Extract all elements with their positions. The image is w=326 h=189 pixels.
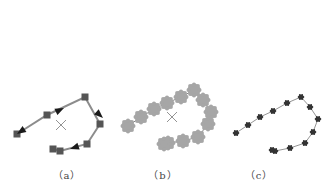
blob-marker-icon bbox=[204, 105, 219, 120]
square-marker-icon bbox=[50, 146, 57, 153]
square-marker-icon bbox=[82, 94, 89, 101]
dot-marker-icon bbox=[257, 114, 264, 120]
square-marker-icon bbox=[84, 141, 91, 148]
panel-b-gray-blobs bbox=[121, 83, 219, 152]
blob-marker-icon bbox=[121, 119, 136, 134]
arrow-head-icon bbox=[54, 108, 64, 115]
figure-canvas bbox=[0, 0, 326, 189]
panel-b-caption: （b） bbox=[148, 167, 177, 182]
dot-marker-icon bbox=[245, 122, 252, 128]
blob-marker-icon bbox=[147, 102, 162, 117]
panel-c-dark-dots bbox=[233, 94, 322, 154]
dot-marker-icon bbox=[315, 116, 322, 122]
dot-marker-icon bbox=[270, 108, 277, 114]
blob-marker-icon bbox=[196, 93, 211, 108]
dot-marker-icon bbox=[302, 140, 309, 146]
blob-marker-icon bbox=[191, 130, 206, 145]
dot-marker-icon bbox=[287, 145, 294, 151]
blob-marker-icon bbox=[201, 117, 216, 132]
panel-a-caption: （a） bbox=[53, 167, 82, 182]
square-marker-icon bbox=[44, 112, 51, 119]
dot-marker-icon bbox=[310, 129, 317, 135]
arrow-head-icon bbox=[70, 143, 80, 150]
blob-marker-icon bbox=[160, 96, 175, 111]
blob-marker-icon bbox=[176, 134, 191, 149]
square-marker-icon bbox=[97, 121, 104, 128]
panel-a-squares-arrows bbox=[14, 94, 104, 155]
arrow-head-icon bbox=[17, 126, 26, 134]
dot-marker-icon bbox=[284, 100, 291, 106]
dot-marker-icon bbox=[233, 130, 240, 136]
square-marker-icon bbox=[57, 148, 64, 155]
panel-c-caption: （c） bbox=[245, 167, 274, 182]
blob-marker-icon bbox=[134, 110, 149, 125]
blob-marker-icon bbox=[157, 137, 172, 152]
blob-marker-icon bbox=[174, 90, 189, 105]
